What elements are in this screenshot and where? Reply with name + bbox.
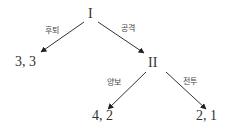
node-player-2: II xyxy=(148,56,157,70)
edge-label-fight: 전투 xyxy=(183,78,197,86)
payoff-retreat: 3, 3 xyxy=(15,55,36,69)
game-tree-diagram: I II 3, 3 4, 2 2, 1 후퇴 공격 양보 전투 xyxy=(0,0,228,134)
edge-label-yield: 양보 xyxy=(107,79,121,87)
node-player-1: I xyxy=(88,7,93,21)
edge-label-retreat: 후퇴 xyxy=(45,27,59,35)
payoff-yield: 4, 2 xyxy=(92,109,113,123)
edge-label-attack: 공격 xyxy=(121,25,135,33)
payoff-fight: 2, 1 xyxy=(196,109,217,123)
